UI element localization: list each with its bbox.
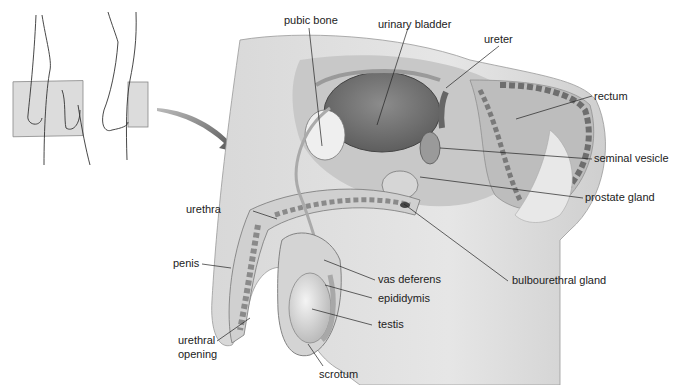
label-urinary-bladder: urinary bladder bbox=[378, 18, 451, 31]
anatomy-illustration bbox=[0, 0, 680, 385]
orientation-inset bbox=[13, 12, 148, 165]
arrow-icon bbox=[157, 108, 236, 152]
label-penis: penis bbox=[173, 257, 199, 270]
label-urethral-opening-line2: opening bbox=[178, 348, 217, 361]
label-rectum: rectum bbox=[594, 90, 628, 103]
label-prostate-gland: prostate gland bbox=[585, 191, 655, 204]
label-urethral-opening-line1: urethral bbox=[178, 334, 215, 347]
label-bulbourethral-gland: bulbourethral gland bbox=[512, 274, 606, 287]
label-seminal-vesicle: seminal vesicle bbox=[594, 152, 669, 165]
label-urethra: urethra bbox=[186, 203, 221, 216]
label-ureter: ureter bbox=[484, 33, 513, 46]
cross-section-body bbox=[212, 35, 606, 385]
label-scrotum: scrotum bbox=[319, 368, 358, 381]
label-testis: testis bbox=[378, 318, 404, 331]
label-vas-deferens: vas deferens bbox=[378, 273, 441, 286]
label-epididymis: epididymis bbox=[378, 292, 430, 305]
label-pubic-bone: pubic bone bbox=[284, 14, 338, 27]
